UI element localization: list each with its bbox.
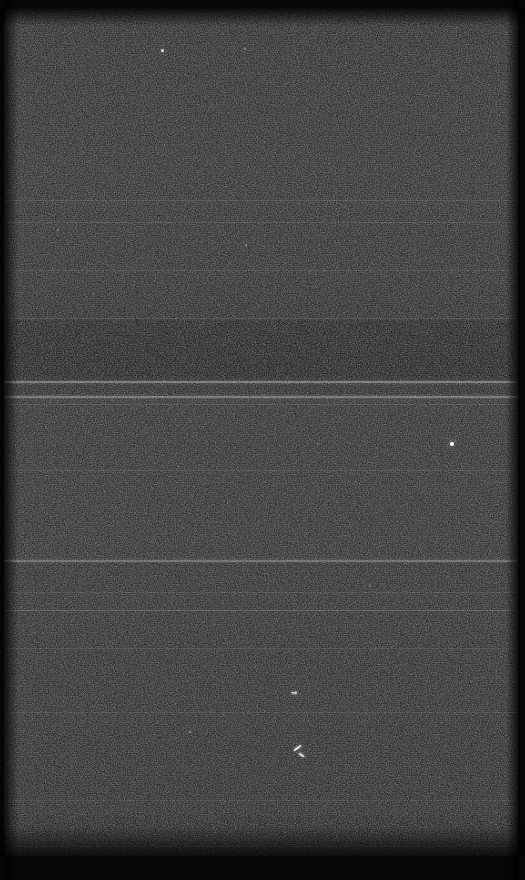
overscan-falloff-bottom [0, 826, 525, 856]
readout-line-1 [0, 200, 525, 201]
upper-bright-region [0, 8, 525, 320]
star-9 [369, 585, 371, 587]
overscan-right [518, 0, 525, 880]
star-5 [189, 731, 191, 733]
readout-line-4 [0, 318, 525, 319]
readout-line-7 [0, 592, 525, 593]
bottom-dim-region [0, 816, 525, 856]
overscan-falloff-left [4, 0, 18, 880]
star-3 [450, 442, 454, 446]
mid-dark-region [0, 320, 525, 382]
cosmic-ray-track-3 [291, 691, 297, 694]
overscan-left [0, 0, 4, 880]
star-1 [161, 49, 164, 52]
readout-line-9 [0, 712, 525, 713]
readout-line-6 [0, 470, 525, 471]
overscan-falloff-top [0, 8, 525, 26]
bright-readout-line-a [0, 381, 525, 383]
cosmic-ray-track-1 [293, 744, 301, 751]
readout-line-11 [0, 846, 525, 847]
readout-line-2 [0, 222, 525, 223]
overscan-top [0, 0, 525, 8]
faint-readout-line-d [0, 610, 525, 611]
star-2 [244, 48, 246, 50]
detector-frame [0, 0, 525, 880]
readout-line-3 [0, 270, 525, 271]
lower-mid-region [0, 566, 525, 816]
illumination-gradient [0, 0, 525, 880]
lower-bright-region [0, 400, 525, 560]
readout-line-5 [0, 404, 525, 405]
overscan-falloff-right [506, 0, 518, 880]
readout-line-10 [0, 800, 525, 801]
cosmic-ray-track-2 [298, 752, 305, 758]
bright-readout-line-c [0, 560, 525, 562]
star-7 [57, 229, 59, 231]
star-4 [295, 691, 297, 693]
star-10 [317, 443, 319, 445]
readout-scanlines [0, 0, 525, 880]
bright-readout-line-b [0, 396, 525, 398]
detector-noise [0, 0, 525, 880]
overscan-bottom [0, 856, 525, 880]
detector-noise-dark [0, 0, 525, 880]
star-6 [245, 244, 247, 246]
detector-background [0, 0, 525, 880]
readout-line-8 [0, 648, 525, 649]
star-8 [185, 855, 187, 857]
